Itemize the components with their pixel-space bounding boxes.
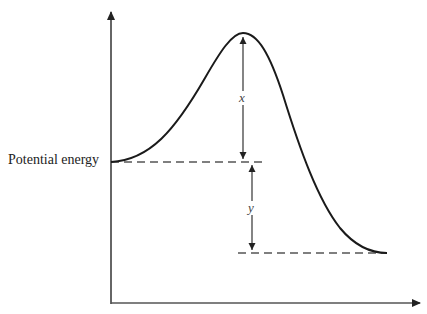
- energy-curve: [111, 33, 387, 253]
- x-annotation-label: x: [238, 91, 246, 105]
- y-annotation-label: y: [247, 201, 255, 215]
- y-axis-label: Potential energy: [8, 152, 99, 168]
